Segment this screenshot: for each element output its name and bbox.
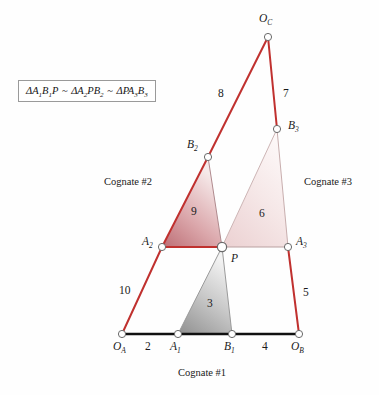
formula-term1-mid: B (42, 85, 48, 96)
edge-B2-OC (208, 37, 268, 157)
node-B3[interactable] (273, 125, 280, 132)
node-OB[interactable] (295, 330, 302, 337)
cognate-linkage-diagram: ΔA1B1P ~ ΔA2PB2 ~ ΔPA3B3 OA A1 B1 OB A2 … (0, 0, 379, 395)
similarity-formula-box: ΔA1B1P ~ ΔA2PB2 ~ ΔPA3B3 (18, 80, 156, 102)
cognate-label-2: Cognate #2 (104, 177, 152, 188)
formula-term3-main: PA (123, 85, 134, 96)
formula-term1-main: A (32, 85, 38, 96)
node-A2[interactable] (158, 243, 165, 250)
edge-length-OA-A2: 10 (119, 285, 131, 297)
point-label-OA: OA (113, 341, 126, 353)
edge-length-A3-OB: 5 (303, 287, 309, 299)
node-A3[interactable] (284, 243, 291, 250)
point-label-OC: OC (259, 13, 272, 25)
formula-term3-sub2: 3 (144, 91, 148, 99)
diagram-canvas (0, 0, 379, 395)
edge-A3-OB (288, 247, 299, 334)
formula-term1-end: P (52, 85, 58, 96)
triangle-number-1: 3 (207, 298, 213, 310)
node-B2[interactable] (204, 153, 211, 160)
triangle-number-2: 9 (191, 206, 197, 218)
formula-term1-sub1: 1 (39, 91, 43, 99)
formula-tilde-1: ~ (61, 85, 69, 96)
edge-length-B2-OC: 8 (218, 88, 224, 100)
formula-term1-sub2: 1 (49, 91, 53, 99)
node-P[interactable] (217, 242, 226, 251)
point-label-OB: OB (291, 341, 304, 353)
edge-length-OC-B3: 7 (283, 88, 289, 100)
formula-term2-mid: PB (87, 85, 100, 96)
node-OC[interactable] (264, 33, 271, 40)
point-label-A3: A3 (296, 236, 307, 248)
edge-OC-B3 (268, 37, 277, 129)
formula-term2-sub2: 2 (100, 91, 104, 99)
point-label-B2: B2 (187, 139, 198, 151)
cognate-label-1: Cognate #1 (178, 368, 226, 379)
point-label-B3: B3 (288, 120, 299, 132)
triangles-layer (162, 129, 288, 334)
point-label-B1: B1 (224, 341, 235, 353)
point-label-A1: A1 (170, 341, 181, 353)
point-label-A2: A2 (142, 236, 153, 248)
node-A1[interactable] (174, 330, 181, 337)
formula-tilde-2: ~ (106, 85, 114, 96)
triangle-number-3: 6 (259, 208, 265, 220)
node-B1[interactable] (228, 330, 235, 337)
triangle-cognate-3-face (222, 129, 288, 247)
edge-length-B1-OB: 4 (262, 341, 268, 353)
point-label-P: P (231, 253, 238, 265)
node-OA[interactable] (118, 330, 125, 337)
formula-term2-main: A (77, 85, 83, 96)
formula-term3-sub1: 3 (134, 91, 138, 99)
triangle-cognate-2-face (162, 157, 222, 247)
cognate-label-3: Cognate #3 (304, 177, 352, 188)
formula-term2-sub1: 2 (84, 91, 88, 99)
edge-length-OA-A1: 2 (145, 341, 151, 353)
